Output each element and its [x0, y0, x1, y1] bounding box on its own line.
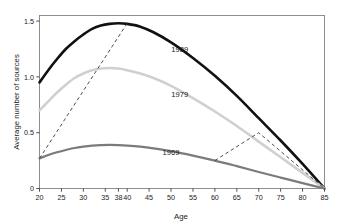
x-tick-label: 75: [277, 193, 285, 202]
x-tick-label: 70: [255, 193, 263, 202]
x-tick-label: 85: [321, 193, 329, 202]
x-axis-title: Age: [174, 212, 188, 221]
y-axis-title: Average number of sources: [12, 54, 21, 150]
series-label-1979: 1979: [171, 90, 188, 99]
x-tick-label: 65: [233, 193, 241, 202]
x-tick-label: 35: [101, 193, 109, 202]
x-tick-label: 20: [36, 193, 44, 202]
x-tick-label: 38: [114, 193, 122, 202]
chart-figure: 202530353840455055606570758085 00.51.01.…: [0, 0, 337, 224]
x-tick-label: 60: [211, 193, 219, 202]
y-tick-label: 1.5: [24, 17, 34, 26]
x-tick-label: 55: [189, 193, 197, 202]
y-tick-label: 0: [30, 184, 34, 193]
series-label-1989: 1989: [171, 45, 188, 54]
x-tick-label: 40: [123, 193, 131, 202]
x-tick-label: 30: [79, 193, 87, 202]
y-tick-label: 0.5: [24, 128, 34, 137]
line-chart-plot: 202530353840455055606570758085 00.51.01.…: [0, 0, 337, 224]
y-tick-label: 1.0: [24, 73, 34, 82]
x-tick-label: 25: [57, 193, 65, 202]
x-tick-label: 80: [299, 193, 307, 202]
chart-background: [0, 0, 337, 224]
x-tick-label: 50: [167, 193, 175, 202]
x-tick-label: 45: [145, 193, 153, 202]
series-label-1969: 1969: [163, 148, 180, 157]
